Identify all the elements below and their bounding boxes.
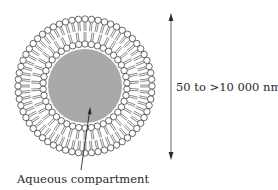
liposome-diagram [0, 0, 278, 190]
arrow-down-icon [169, 152, 174, 160]
arrow-up-icon [169, 13, 174, 21]
diameter-arrow [169, 13, 174, 160]
aqueous-core [48, 49, 122, 123]
diameter-label: 50 to >10 000 nm [176, 82, 278, 94]
aqueous-compartment-label: Aqueous compartment [17, 174, 149, 186]
